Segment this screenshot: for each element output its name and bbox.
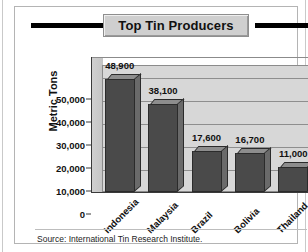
y-tick-mark bbox=[86, 121, 91, 122]
bar-side-face bbox=[307, 161, 308, 192]
bar: 11,000 bbox=[278, 167, 308, 192]
bar-front-face bbox=[235, 153, 265, 192]
bar: 48,900 bbox=[105, 79, 135, 192]
chart-figure: Top Tin Producers Metric Tons 010,00020,… bbox=[0, 0, 308, 252]
y-axis-line bbox=[91, 57, 92, 193]
bar-side-face bbox=[134, 73, 141, 192]
chart-title: Top Tin Producers bbox=[118, 18, 233, 33]
source-note: Source: International Tin Research Insti… bbox=[37, 234, 202, 244]
bar-side-face bbox=[264, 148, 271, 192]
y-tick-label: 50,000 bbox=[37, 93, 85, 104]
bar: 38,100 bbox=[148, 104, 178, 192]
y-tick-label: 0 bbox=[37, 209, 85, 220]
y-tick-mark bbox=[86, 98, 91, 99]
y-tick-label: 10,000 bbox=[37, 185, 85, 196]
y-tick-mark bbox=[86, 144, 91, 145]
x-axis-line bbox=[91, 192, 308, 193]
bar-front-face bbox=[192, 151, 222, 192]
y-tick-label: 30,000 bbox=[37, 139, 85, 150]
y-tick-label: 40,000 bbox=[37, 116, 85, 127]
plot-wrapper: Metric Tons 010,00020,00030,00040,00050,… bbox=[29, 43, 308, 223]
bar-series: 48,90038,10017,60016,70011,000 bbox=[102, 65, 308, 192]
bar-value-label: 38,100 bbox=[149, 85, 178, 96]
y-tick-mark bbox=[86, 190, 91, 191]
bar-side-face bbox=[221, 145, 228, 191]
x-category-label: Bolivia bbox=[231, 205, 261, 235]
bar-side-face bbox=[177, 98, 184, 192]
bar-front-face bbox=[148, 104, 178, 192]
footer-divider bbox=[35, 229, 307, 230]
y-tick-mark bbox=[86, 167, 91, 168]
y-tick-label: 20,000 bbox=[37, 162, 85, 173]
bar-front-face bbox=[105, 79, 135, 192]
bar: 16,700 bbox=[235, 153, 265, 192]
y-tick-mark bbox=[86, 214, 91, 215]
title-rail-right bbox=[255, 23, 308, 28]
chart-title-box: Top Tin Producers bbox=[103, 14, 249, 37]
bar-front-face bbox=[278, 167, 308, 192]
page-edge-left-rule bbox=[2, 0, 3, 252]
bar: 17,600 bbox=[192, 151, 222, 192]
chart-panel: Top Tin Producers Metric Tons 010,00020,… bbox=[14, 6, 298, 244]
y-axis-tick-labels: 010,00020,00030,00040,00050,000 bbox=[35, 43, 85, 223]
bar-value-label: 11,000 bbox=[279, 148, 308, 159]
x-category-label: Brazil bbox=[188, 209, 214, 235]
bar-value-label: 48,900 bbox=[105, 60, 134, 71]
plot-top-edge bbox=[91, 57, 308, 58]
bar-value-label: 17,600 bbox=[192, 132, 221, 143]
bar-value-label: 16,700 bbox=[235, 134, 264, 145]
bar-top-face bbox=[280, 162, 308, 168]
